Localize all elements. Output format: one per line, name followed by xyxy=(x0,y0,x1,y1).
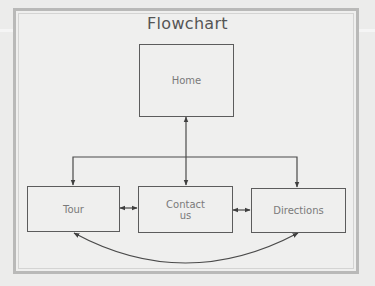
node-contact-label-line2: us xyxy=(180,210,192,221)
node-home: Home xyxy=(139,44,234,117)
edge-tour-directions xyxy=(74,233,298,263)
edge-home-tour xyxy=(73,157,186,185)
node-tour-label: Tour xyxy=(63,204,84,215)
node-contact: Contact us xyxy=(138,186,233,233)
node-directions-label: Directions xyxy=(273,205,323,216)
node-home-label: Home xyxy=(172,75,202,86)
node-contact-label-line1: Contact xyxy=(166,199,205,210)
node-directions: Directions xyxy=(251,188,346,233)
edge-home-directions xyxy=(186,157,297,187)
node-tour: Tour xyxy=(27,186,120,232)
edges-layer xyxy=(0,0,375,286)
